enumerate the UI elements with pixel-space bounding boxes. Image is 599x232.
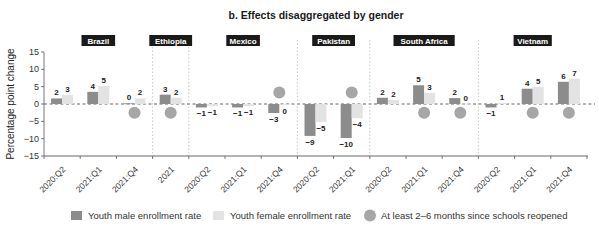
female-bar xyxy=(243,104,254,106)
x-tick-label: 2021:Q1 xyxy=(508,164,538,194)
female-bar xyxy=(497,103,508,104)
reopened-marker xyxy=(418,107,430,119)
country-label: South Africa xyxy=(400,37,448,46)
male-bar xyxy=(341,104,352,138)
country-label: Brazil xyxy=(87,37,109,46)
bar-value-label: −1 xyxy=(244,108,254,117)
y-tick-label: −5 xyxy=(29,116,39,126)
y-tick-label: 10 xyxy=(29,64,39,74)
bar-value-label: 5 xyxy=(416,75,421,84)
male-bar xyxy=(413,85,424,104)
bar-value-label: 2 xyxy=(54,88,59,97)
legend-swatch-male xyxy=(71,211,82,220)
bar-value-label: 0 xyxy=(127,93,132,102)
female-bar xyxy=(533,87,544,104)
x-tick-label: 2020:Q2 xyxy=(291,164,321,194)
bar-value-label: 2 xyxy=(380,88,385,97)
x-tick-label: 2021:Q4 xyxy=(436,164,466,194)
female-bar xyxy=(171,98,182,104)
male-bar xyxy=(449,98,460,104)
country-labels: BrazilEthiopiaMexicoPakistanSouth Africa… xyxy=(82,35,552,46)
female-bar xyxy=(98,86,109,104)
reopened-marker xyxy=(346,87,358,99)
legend-label-male: Youth male enrollment rate xyxy=(88,210,201,221)
female-bar xyxy=(388,100,399,104)
y-tick-label: 15 xyxy=(29,47,39,57)
bar-value-label: 2 xyxy=(174,88,179,97)
bar-value-label: 2 xyxy=(138,88,143,97)
bar-value-label: 7 xyxy=(572,69,577,78)
bar-value-label: 3 xyxy=(65,85,70,94)
x-tick-label: 2021:Q1 xyxy=(74,164,104,194)
country-label: Mexico xyxy=(230,37,257,46)
y-axis-label: Percentage point change xyxy=(5,48,16,160)
country-label: Ethiopia xyxy=(155,37,187,46)
x-tick-label: 2021:Q4 xyxy=(110,164,140,194)
male-bar xyxy=(268,104,279,113)
female-bar xyxy=(424,93,435,104)
x-tick-label: 2021:Q1 xyxy=(218,164,248,194)
female-bar xyxy=(279,104,290,105)
bar-value-label: 2 xyxy=(391,90,396,99)
male-bar xyxy=(305,104,316,136)
male-bar xyxy=(124,103,135,104)
bar-value-label: −9 xyxy=(305,138,315,147)
bar-value-label: −10 xyxy=(339,140,353,149)
bar-value-label: −5 xyxy=(316,124,326,133)
male-bar xyxy=(196,104,207,107)
bar-value-label: 6 xyxy=(561,72,566,81)
reopened-marker xyxy=(527,107,539,119)
bar-value-label: 3 xyxy=(427,83,432,92)
male-bar xyxy=(232,104,243,107)
reopened-marker xyxy=(563,107,575,119)
legend-label-female: Youth female enrollment rate xyxy=(230,210,351,221)
bar-value-label: −1 xyxy=(197,109,207,118)
y-tick-label: 0 xyxy=(34,99,39,109)
bar-value-label: 3 xyxy=(163,85,168,94)
bar-value-label: 0 xyxy=(283,107,288,116)
male-bar xyxy=(51,98,62,104)
x-tick-label: 2020:Q2 xyxy=(182,164,212,194)
bar-value-label: 4 xyxy=(525,79,530,88)
female-bar xyxy=(316,104,327,122)
y-tick-label: −10 xyxy=(24,134,39,144)
female-bar xyxy=(207,104,218,106)
reopened-marker xyxy=(129,107,141,119)
legend-label-reopened: At least 2–6 months since schools reopen… xyxy=(381,210,567,221)
male-bar xyxy=(522,89,533,104)
female-bar xyxy=(460,104,471,105)
x-tick-label: 2020:Q2 xyxy=(363,164,393,194)
legend-swatch-female xyxy=(213,211,224,220)
reopened-marker xyxy=(273,87,285,99)
x-tick-label: 2020:Q2 xyxy=(37,164,67,194)
female-bar xyxy=(352,104,363,118)
reopened-marker xyxy=(165,107,177,119)
male-bar xyxy=(87,92,98,104)
bar-value-label: 5 xyxy=(536,77,541,86)
bar-value-label: −4 xyxy=(353,120,363,129)
bar-value-label: 5 xyxy=(102,76,107,85)
female-bar xyxy=(135,98,146,104)
male-bar xyxy=(160,95,171,104)
male-bar xyxy=(558,82,569,104)
x-axis: 2020:Q22021:Q12021:Q420212020:Q22021:Q12… xyxy=(37,156,588,194)
male-bar xyxy=(377,98,388,104)
x-tick-label: 2020:Q2 xyxy=(472,164,502,194)
x-tick-label: 2021:Q1 xyxy=(399,164,429,194)
bar-value-label: 0 xyxy=(464,94,469,103)
legend: Youth male enrollment rate Youth female … xyxy=(71,210,567,222)
x-tick-label: 2021:Q4 xyxy=(255,164,285,194)
legend-marker-reopened xyxy=(364,210,376,222)
female-bar xyxy=(62,95,73,104)
reopened-marker xyxy=(454,107,466,119)
y-tick-label: −15 xyxy=(24,151,39,161)
x-tick-label: 2021:Q1 xyxy=(327,164,357,194)
bar-value-label: 1 xyxy=(500,93,505,102)
country-label: Pakistan xyxy=(317,37,350,46)
x-tick-label: 2021:Q4 xyxy=(544,164,574,194)
y-tick-label: 5 xyxy=(34,82,39,92)
enrollment-effects-chart: b. Effects disaggregated by gender Perce… xyxy=(0,0,599,232)
bar-value-label: 2 xyxy=(453,88,458,97)
bar-value-label: −1 xyxy=(233,109,243,118)
male-bar xyxy=(486,104,497,107)
